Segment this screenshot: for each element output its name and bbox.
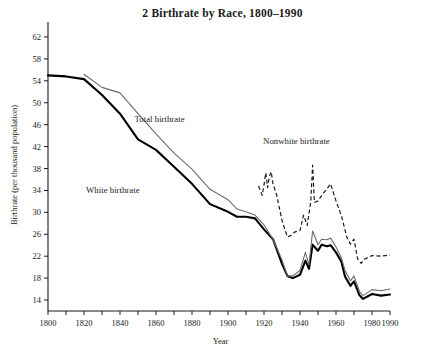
x-tick-label: 1860 — [148, 318, 165, 328]
x-tick-label: 1990 — [382, 318, 399, 328]
y-tick-label: 18 — [33, 273, 42, 283]
x-tick-label: 1800 — [40, 318, 57, 328]
x-tick-label: 1820 — [76, 318, 93, 328]
y-tick-label: 34 — [33, 185, 42, 195]
y-tick-label: 42 — [33, 142, 42, 152]
y-tick-label: 30 — [33, 207, 42, 217]
x-tick-label: 1880 — [184, 318, 201, 328]
x-tick-label: 1920 — [256, 318, 273, 328]
figure-container: 2 Birthrate by Race, 1800–1990 Birthrate… — [0, 0, 421, 361]
chart-axes — [48, 22, 390, 311]
annotation-total-birthrate: Total birthrate — [135, 114, 185, 124]
y-tick-label: 22 — [33, 251, 42, 261]
annotation-nonwhite-birthrate: Nonwhite birthrate — [263, 136, 330, 146]
x-tick-label: 1940 — [292, 318, 309, 328]
series-line-nonwhite — [259, 165, 390, 263]
y-tick-label: 58 — [33, 54, 42, 64]
birthrate-line-chart: 1418222630343842465054586218001820184018… — [0, 0, 421, 361]
y-tick-label: 46 — [33, 120, 42, 130]
x-tick-label: 1840 — [112, 318, 129, 328]
annotation-white-birthrate: White birthrate — [86, 185, 140, 195]
y-tick-label: 62 — [33, 32, 42, 42]
y-tick-label: 38 — [33, 164, 42, 174]
x-tick-label: 1980 — [364, 318, 381, 328]
x-tick-label: 1900 — [220, 318, 237, 328]
x-tick-label: 1960 — [328, 318, 345, 328]
y-tick-label: 54 — [33, 76, 42, 86]
y-tick-label: 50 — [33, 98, 42, 108]
y-tick-label: 26 — [33, 229, 42, 239]
page-edge-artifact — [8, 352, 308, 359]
y-tick-label: 14 — [33, 295, 42, 305]
